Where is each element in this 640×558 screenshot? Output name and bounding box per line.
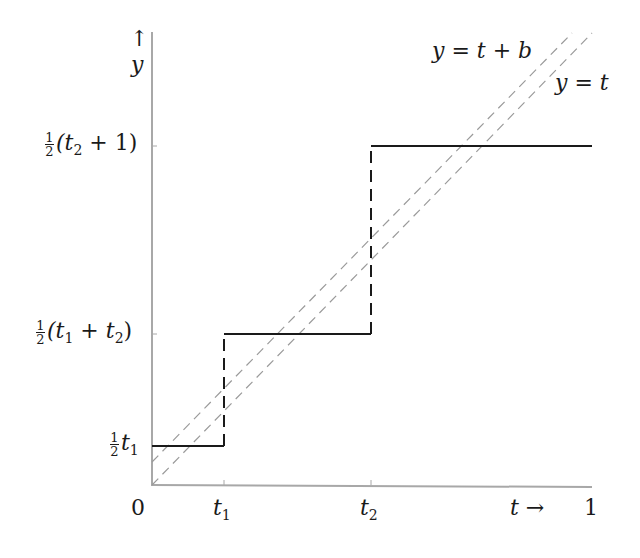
xtick-one: 1 xyxy=(584,495,598,520)
ytick-half-t1: 12t1 xyxy=(110,430,139,458)
plot-canvas xyxy=(0,0,640,558)
label-y-equals-t: y = t xyxy=(555,70,609,95)
line-y-equals-t xyxy=(152,33,592,485)
ytick-half-t1-plus-t2: 12(t1 + t2) xyxy=(36,318,132,346)
xtick-t1: t1 xyxy=(213,495,231,523)
y-axis-label: y xyxy=(131,52,143,77)
label-y-equals-t-plus-b: y = t + b xyxy=(432,38,532,63)
line-y-equals-t-plus-b xyxy=(152,33,572,462)
x-axis xyxy=(151,485,592,487)
x-axis-label: t → xyxy=(510,495,544,520)
ytick-half-t2-plus-1: 12(t2 + 1) xyxy=(45,130,137,158)
xtick-zero: 0 xyxy=(131,495,145,520)
step-function xyxy=(152,146,592,446)
xtick-t2: t2 xyxy=(360,495,378,523)
y-arrow-icon: ↑ xyxy=(130,26,148,51)
